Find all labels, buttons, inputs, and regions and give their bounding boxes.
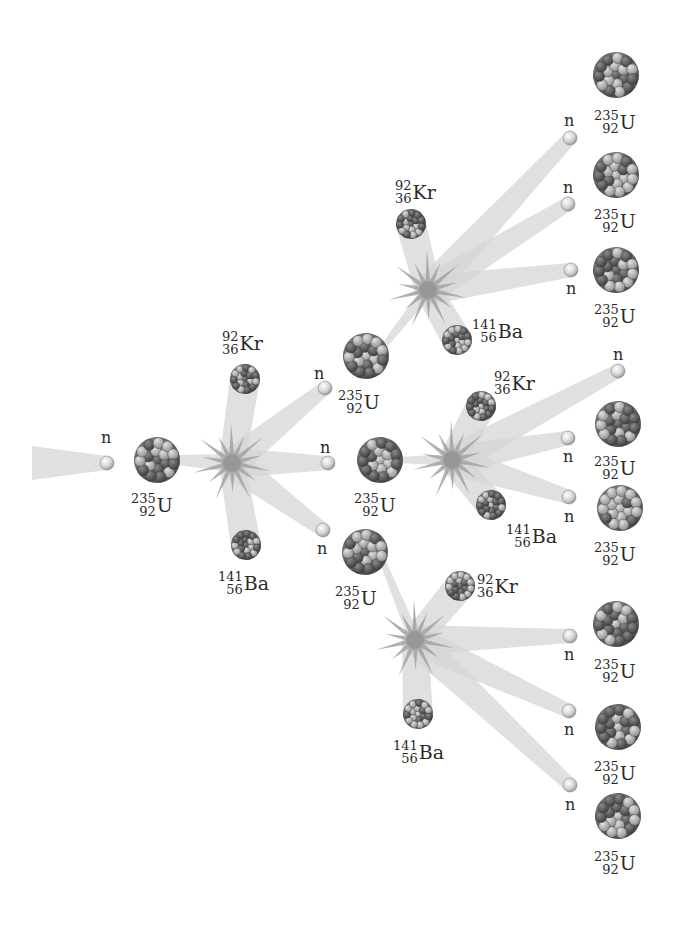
neutron-label: n bbox=[320, 440, 330, 456]
barium-141-nucleus bbox=[442, 325, 472, 355]
uranium-235-label: 23592U bbox=[338, 387, 380, 415]
atomic-number: 92 bbox=[602, 554, 619, 567]
uranium-235-nucleus bbox=[593, 601, 639, 647]
neutron-icon bbox=[316, 523, 330, 537]
neutron-label: n bbox=[566, 281, 576, 297]
element-symbol: Ba bbox=[419, 743, 444, 762]
krypton-92-label: 9236Kr bbox=[477, 571, 518, 599]
atomic-number: 56 bbox=[226, 583, 243, 596]
uranium-235-nucleus bbox=[342, 529, 388, 575]
krypton-92-nucleus bbox=[230, 364, 260, 394]
neutron-label: n bbox=[564, 722, 574, 738]
neutron-label: n bbox=[314, 366, 324, 382]
element-symbol: U bbox=[620, 662, 636, 681]
neutron-icon bbox=[100, 456, 114, 470]
neutron-icon bbox=[564, 263, 578, 277]
neutron-icon bbox=[611, 364, 625, 378]
element-symbol: U bbox=[620, 212, 636, 231]
neutron-icon bbox=[562, 704, 576, 718]
neutron-label: n bbox=[564, 113, 574, 129]
element-symbol: Kr bbox=[495, 577, 518, 596]
atomic-number: 92 bbox=[602, 221, 619, 234]
neutron-label: n bbox=[563, 180, 573, 196]
uranium-235-label: 23592U bbox=[594, 656, 636, 684]
barium-141-label: 14156Ba bbox=[472, 316, 523, 344]
uranium-235-label: 23592U bbox=[594, 758, 636, 786]
krypton-92-nucleus bbox=[445, 571, 475, 601]
element-symbol: U bbox=[620, 764, 636, 783]
element-symbol: U bbox=[620, 459, 636, 478]
atomic-number: 92 bbox=[602, 316, 619, 329]
element-symbol: U bbox=[364, 393, 380, 412]
barium-141-label: 14156Ba bbox=[506, 521, 557, 549]
uranium-235-label: 23592U bbox=[594, 539, 636, 567]
element-symbol: Kr bbox=[512, 374, 535, 393]
krypton-92-label: 9236Kr bbox=[222, 328, 263, 356]
element-symbol: Kr bbox=[413, 183, 436, 202]
element-symbol: U bbox=[361, 589, 377, 608]
barium-141-label: 14156Ba bbox=[393, 737, 444, 765]
atomic-number: 36 bbox=[222, 343, 239, 356]
fission-diagram bbox=[0, 0, 681, 929]
atomic-number: 92 bbox=[602, 671, 619, 684]
uranium-235-nucleus bbox=[597, 485, 643, 531]
uranium-235-label: 23592U bbox=[594, 107, 636, 135]
barium-141-label: 14156Ba bbox=[218, 568, 269, 596]
barium-141-nucleus bbox=[403, 699, 433, 729]
element-symbol: Ba bbox=[532, 527, 557, 546]
neutron-label: n bbox=[565, 797, 575, 813]
element-symbol: Kr bbox=[240, 334, 263, 353]
krypton-92-label: 9236Kr bbox=[395, 177, 436, 205]
uranium-235-nucleus bbox=[595, 401, 641, 447]
atomic-number: 92 bbox=[602, 773, 619, 786]
uranium-235-label: 23592U bbox=[131, 490, 173, 518]
barium-141-nucleus bbox=[476, 490, 506, 520]
neutron-icon bbox=[561, 431, 575, 445]
atomic-number: 92 bbox=[362, 505, 379, 518]
uranium-235-label: 23592U bbox=[594, 301, 636, 329]
atomic-number: 92 bbox=[343, 598, 360, 611]
element-symbol: U bbox=[620, 307, 636, 326]
neutron-label: n bbox=[101, 430, 111, 446]
neutron-icon bbox=[563, 778, 577, 792]
atomic-number: 56 bbox=[401, 752, 418, 765]
element-symbol: U bbox=[620, 545, 636, 564]
uranium-235-nucleus bbox=[357, 437, 403, 483]
uranium-235-nucleus bbox=[595, 704, 641, 750]
element-symbol: Ba bbox=[498, 322, 523, 341]
incoming-neutron-trail bbox=[32, 446, 107, 480]
neutron-label: n bbox=[613, 347, 623, 363]
neutron-label: n bbox=[564, 509, 574, 525]
element-symbol: Ba bbox=[244, 574, 269, 593]
neutron-label: n bbox=[317, 541, 327, 557]
krypton-92-nucleus bbox=[466, 391, 496, 421]
neutron-icon bbox=[318, 381, 332, 395]
atomic-number: 92 bbox=[139, 505, 156, 518]
uranium-235-label: 23592U bbox=[335, 583, 377, 611]
neutron-icon bbox=[321, 456, 335, 470]
neutron-icon bbox=[563, 629, 577, 643]
atomic-number: 56 bbox=[514, 536, 531, 549]
uranium-235-nucleus bbox=[593, 52, 639, 98]
barium-141-nucleus bbox=[231, 530, 261, 560]
neutron-icon bbox=[561, 197, 575, 211]
atomic-number: 92 bbox=[602, 468, 619, 481]
uranium-235-label: 23592U bbox=[594, 848, 636, 876]
uranium-235-label: 23592U bbox=[594, 453, 636, 481]
atomic-number: 92 bbox=[602, 122, 619, 135]
element-symbol: U bbox=[620, 113, 636, 132]
uranium-235-nucleus bbox=[343, 333, 389, 379]
neutron-label: n bbox=[563, 449, 573, 465]
atomic-number: 36 bbox=[477, 586, 494, 599]
atomic-number: 36 bbox=[494, 383, 511, 396]
neutron-icon bbox=[562, 490, 576, 504]
neutron-label: n bbox=[564, 647, 574, 663]
element-symbol: U bbox=[620, 854, 636, 873]
atomic-number: 56 bbox=[480, 331, 497, 344]
uranium-235-nucleus bbox=[595, 793, 641, 839]
krypton-92-nucleus bbox=[396, 209, 426, 239]
krypton-92-label: 9236Kr bbox=[494, 368, 535, 396]
neutron-icon bbox=[563, 131, 577, 145]
uranium-235-nucleus bbox=[593, 152, 639, 198]
uranium-235-label: 23592U bbox=[354, 490, 396, 518]
